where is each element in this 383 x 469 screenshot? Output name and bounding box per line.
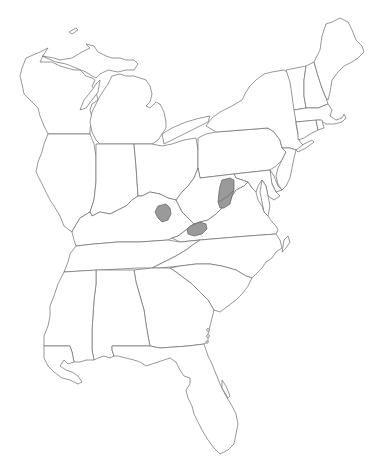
state-florida	[112, 344, 238, 454]
sea-island-3	[206, 341, 208, 343]
state-pennsylvania	[198, 128, 286, 178]
state-michigan-lower	[90, 74, 166, 144]
sea-island-1	[207, 329, 210, 332]
sea-island-2	[207, 335, 210, 338]
eastern-us-range-map	[0, 0, 383, 469]
isle-royale	[69, 28, 78, 34]
state-connecticut	[296, 120, 318, 140]
outer-banks	[282, 236, 290, 252]
